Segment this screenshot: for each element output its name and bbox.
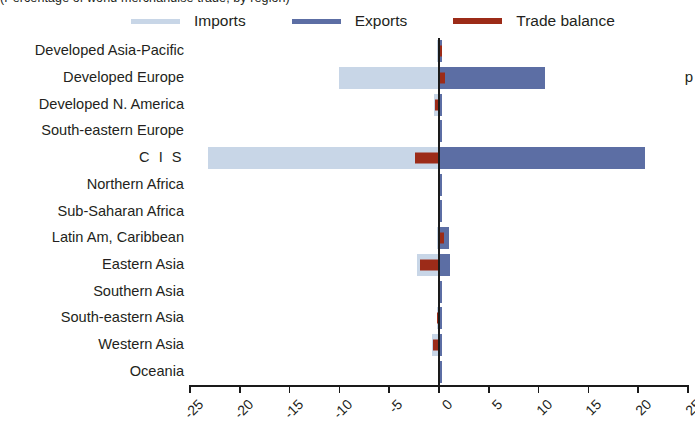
y-axis-label: South-eastern Asia [0, 309, 184, 325]
chart-figure: (Percentage of world merchandise trade, … [0, 0, 695, 448]
y-axis-label: Northern Africa [0, 176, 184, 192]
x-tick-label: -15 [280, 396, 306, 422]
y-axis-label: Developed Asia-Pacific [0, 42, 184, 58]
y-axis-label: Developed Europe [0, 69, 184, 85]
legend-label-trade-balance: Trade balance [516, 12, 615, 30]
legend-line-trade-balance-icon [453, 18, 502, 24]
x-tick [289, 385, 291, 393]
x-tick-label: 20 [632, 396, 654, 418]
x-tick-label: 5 [488, 396, 505, 413]
x-axis-ticks: -25-20-15-10-50510152025 [190, 385, 688, 448]
legend-line-exports-icon [292, 19, 341, 24]
bar-exports [439, 254, 450, 276]
x-tick [588, 385, 590, 393]
figure-title-fragment: (Percentage of world merchandise trade, … [0, 0, 695, 5]
right-edge-text-fragment: p [685, 68, 693, 85]
x-tick [687, 385, 689, 393]
x-tick-label: -25 [181, 396, 207, 422]
x-tick [538, 385, 540, 393]
x-tick-label: -5 [385, 396, 405, 416]
x-tick-label: -20 [230, 396, 256, 422]
y-axis-label: C I S [0, 149, 184, 165]
x-tick [239, 385, 241, 393]
legend-label-exports: Exports [355, 12, 408, 30]
x-tick-label: 0 [438, 396, 455, 413]
y-axis-label: Western Asia [0, 336, 184, 352]
bar-trade-balance [439, 73, 445, 84]
bar-exports [439, 147, 645, 169]
x-tick-label: 15 [582, 396, 604, 418]
bar-trade-balance [420, 259, 439, 270]
x-tick [388, 385, 390, 393]
bar-trade-balance [415, 153, 439, 164]
chart-legend: Imports Exports Trade balance [0, 9, 695, 33]
y-axis-label: Latin Am, Caribbean [0, 229, 184, 245]
y-axis-label: South-eastern Europe [0, 122, 184, 138]
legend-item-trade-balance: Trade balance [453, 12, 615, 30]
x-tick [339, 385, 341, 393]
y-axis-label: Oceania [0, 363, 184, 379]
legend-item-imports: Imports [131, 12, 246, 30]
plot-area [190, 38, 688, 385]
y-axis-label: Eastern Asia [0, 256, 184, 272]
x-tick [637, 385, 639, 393]
zero-axis-line [438, 38, 440, 385]
bar-exports [439, 67, 545, 89]
legend-line-imports-icon [131, 19, 180, 24]
y-axis-label: Sub-Saharan Africa [0, 203, 184, 219]
y-axis-category-labels: Developed Asia-PacificDeveloped EuropeDe… [0, 38, 184, 385]
y-axis-label: Developed N. America [0, 96, 184, 112]
legend-item-exports: Exports [292, 12, 408, 30]
x-tick-label: -10 [330, 396, 356, 422]
x-tick [488, 385, 490, 393]
x-tick [189, 385, 191, 393]
x-tick [438, 385, 440, 393]
y-axis-label: Southern Asia [0, 283, 184, 299]
bar-imports [208, 147, 439, 169]
bar-imports [339, 67, 439, 89]
x-tick-label: 10 [533, 396, 555, 418]
legend-label-imports: Imports [194, 12, 246, 30]
x-tick-label: 25 [682, 396, 695, 418]
